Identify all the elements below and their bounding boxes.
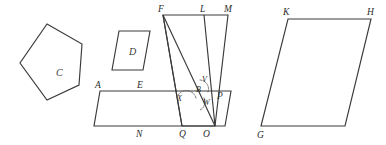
vertex-label-l: L <box>199 4 205 14</box>
segment-f-to-o <box>163 15 215 126</box>
vertex-label-g: G <box>257 130 264 140</box>
vertex-label-w: W <box>203 98 211 107</box>
diagram-svg: C D F L M K H A E P V B X W N Q O G <box>0 0 386 145</box>
vertex-label-a: A <box>94 80 101 90</box>
parallelogram-kghg <box>261 19 371 126</box>
segment-l-to-o <box>204 15 215 126</box>
vertex-label-f: F <box>157 4 164 14</box>
vertex-label-n: N <box>135 129 143 139</box>
vertex-label-v: V <box>202 75 208 84</box>
vertex-label-x: X <box>176 94 183 103</box>
parallelogram-aenp <box>94 91 231 126</box>
vertex-label-o: O <box>203 129 210 139</box>
vertex-label-p: P <box>216 91 223 101</box>
vertex-label-h: H <box>366 7 375 17</box>
segment-f-to-q <box>163 15 182 126</box>
vertex-label-m: M <box>223 4 233 14</box>
vertex-label-k: K <box>282 7 290 17</box>
region-label-c: C <box>56 67 63 78</box>
pentagon-c <box>20 24 82 100</box>
vertex-label-q: Q <box>179 129 186 139</box>
region-label-d: D <box>128 46 137 57</box>
geometry-diagram-canvas: C D F L M K H A E P V B X W N Q O G <box>0 0 386 145</box>
vertex-label-b: B <box>196 85 201 94</box>
vertex-label-e: E <box>136 80 143 90</box>
